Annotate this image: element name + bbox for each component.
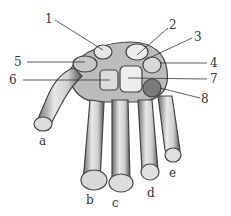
- finger-label-b: b: [86, 194, 94, 206]
- finger-label-e: e: [169, 167, 176, 179]
- carpal-bones: [70, 42, 168, 102]
- fingers: [81, 96, 181, 192]
- label-5: 5: [14, 56, 22, 68]
- finger-label-c: c: [112, 197, 119, 209]
- thumb: [34, 68, 82, 131]
- label-7: 7: [210, 73, 218, 85]
- label-1: 1: [45, 13, 53, 25]
- label-3: 3: [194, 31, 202, 43]
- label-6: 6: [9, 74, 17, 86]
- label-8: 8: [201, 93, 209, 105]
- finger-label-d: d: [147, 187, 155, 199]
- label-2: 2: [169, 19, 177, 31]
- finger-label-a: a: [39, 135, 46, 147]
- label-4: 4: [210, 57, 218, 69]
